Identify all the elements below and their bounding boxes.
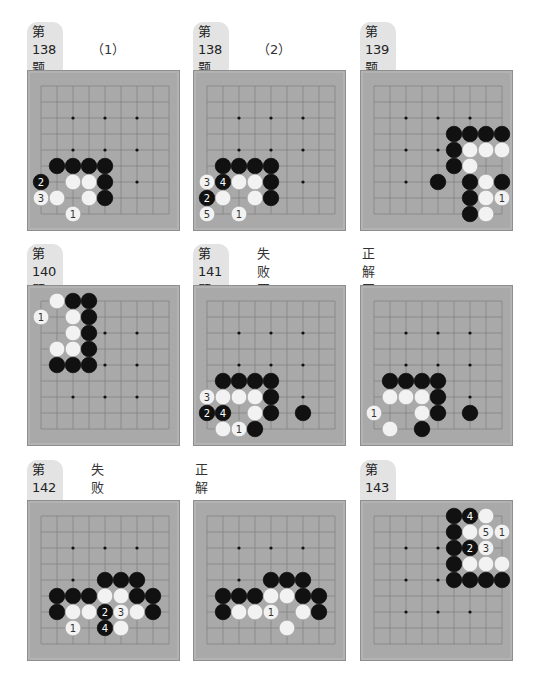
white-stone: 3 (478, 540, 494, 556)
star-point (269, 148, 272, 151)
star-point (301, 395, 304, 398)
black-stone (295, 572, 311, 588)
white-stone (295, 604, 311, 620)
white-stone (65, 174, 81, 190)
black-stone (430, 174, 446, 190)
move-number: 2 (204, 193, 210, 204)
move-number: 1 (236, 209, 242, 220)
black-stone (81, 325, 97, 341)
black-stone (430, 373, 446, 389)
move-number: 2 (38, 177, 44, 188)
star-point (71, 395, 74, 398)
black-stone (295, 588, 311, 604)
problem-header: 第143题 (360, 478, 396, 498)
black-stone (462, 190, 478, 206)
black-stone (97, 174, 113, 190)
black-stone (145, 588, 161, 604)
star-point (237, 363, 240, 366)
white-stone (478, 508, 494, 524)
move-number: 1 (70, 623, 76, 634)
black-stone (263, 158, 279, 174)
black-stone (263, 572, 279, 588)
black-stone (231, 158, 247, 174)
black-stone (81, 293, 97, 309)
black-stone (311, 604, 327, 620)
black-stone (231, 373, 247, 389)
go-board-p139: 1 (360, 70, 513, 231)
black-stone (430, 405, 446, 421)
problem-header: 第142题 失败图 (27, 478, 104, 498)
move-number: 2 (204, 408, 210, 419)
move-number: 2 (102, 607, 108, 618)
black-stone (494, 126, 510, 142)
white-stone (215, 421, 231, 437)
problem-header: 第141题 失败图 (193, 262, 270, 282)
black-stone (446, 540, 462, 556)
black-stone (215, 158, 231, 174)
black-stone (478, 126, 494, 142)
star-point (468, 363, 471, 366)
white-stone (247, 190, 263, 206)
move-number: 4 (102, 623, 108, 634)
black-stone (263, 190, 279, 206)
black-stone (65, 357, 81, 373)
star-point (269, 546, 272, 549)
star-point (237, 546, 240, 549)
star-point (237, 148, 240, 151)
star-point (237, 578, 240, 581)
white-stone (414, 389, 430, 405)
star-point (135, 331, 138, 334)
black-stone (247, 158, 263, 174)
star-point (103, 395, 106, 398)
star-point (436, 578, 439, 581)
black-stone: 2 (199, 190, 215, 206)
move-number: 3 (483, 543, 489, 554)
black-stone (446, 142, 462, 158)
white-stone (81, 190, 97, 206)
white-stone (462, 524, 478, 540)
star-point (71, 148, 74, 151)
star-point (135, 546, 138, 549)
go-board-p143: 45123 (360, 500, 513, 661)
white-stone: 1 (494, 524, 510, 540)
black-stone (295, 405, 311, 421)
star-point (436, 148, 439, 151)
black-stone (81, 588, 97, 604)
black-stone (81, 357, 97, 373)
white-stone (478, 190, 494, 206)
black-stone (494, 572, 510, 588)
star-point (404, 331, 407, 334)
white-stone: 5 (199, 206, 215, 222)
star-point (135, 395, 138, 398)
white-stone (247, 604, 263, 620)
white-stone (231, 604, 247, 620)
white-stone (247, 405, 263, 421)
white-stone (113, 620, 129, 636)
move-number: 1 (499, 527, 505, 538)
white-stone: 1 (231, 421, 247, 437)
problem-sub-label: （1） (91, 41, 125, 59)
black-stone (478, 572, 494, 588)
black-stone (382, 373, 398, 389)
white-stone (129, 604, 145, 620)
white-stone (65, 309, 81, 325)
star-point (103, 331, 106, 334)
black-stone (97, 572, 113, 588)
white-stone (215, 389, 231, 405)
move-number: 1 (38, 312, 44, 323)
star-point (269, 116, 272, 119)
black-stone (97, 158, 113, 174)
white-stone (382, 421, 398, 437)
go-board-p142-correct: 1 (193, 500, 346, 661)
black-stone (462, 174, 478, 190)
white-stone (462, 158, 478, 174)
star-point (103, 116, 106, 119)
black-stone (113, 572, 129, 588)
star-point (404, 363, 407, 366)
white-stone (478, 556, 494, 572)
black-stone: 4 (215, 174, 231, 190)
white-stone (263, 588, 279, 604)
white-stone: 1 (231, 206, 247, 222)
black-stone (263, 389, 279, 405)
black-stone (49, 588, 65, 604)
